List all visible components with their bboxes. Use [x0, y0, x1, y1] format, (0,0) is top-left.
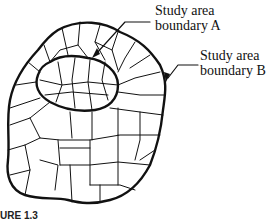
label-b-line-1: Study area [200, 48, 266, 63]
label-b-line-2: boundary B [200, 63, 266, 78]
leader-line-a [96, 22, 150, 54]
label-a-line-1: Study area [155, 3, 221, 18]
leader-line-b [168, 65, 198, 78]
label-boundary-a: Study area boundary A [155, 3, 221, 33]
study-area-map [0, 0, 275, 222]
label-boundary-b: Study area boundary B [200, 48, 266, 78]
boundary-b-outline [8, 23, 166, 203]
label-a-line-2: boundary A [155, 18, 221, 33]
figure-caption-fragment: URE 1.3 [0, 210, 38, 221]
diagram-canvas: Study area boundary A Study area boundar… [0, 0, 275, 222]
